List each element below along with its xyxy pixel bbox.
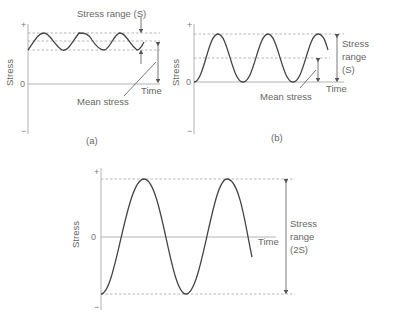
stress-range-line2: range bbox=[290, 231, 314, 242]
stress-range-line3: (S) bbox=[342, 64, 355, 75]
tick-zero: 0 bbox=[20, 79, 25, 89]
tick-minus: − bbox=[94, 302, 99, 312]
x-axis-label: Time bbox=[141, 85, 162, 96]
caption-a: (a) bbox=[86, 135, 98, 146]
tick-plus: + bbox=[94, 167, 99, 177]
caption-b: (b) bbox=[271, 132, 283, 143]
mean-stress-label: Mean stress bbox=[77, 96, 129, 107]
stress-wave-c bbox=[101, 179, 252, 294]
stress-range-label: Stress range (S) bbox=[77, 8, 146, 19]
stress-wave-a bbox=[28, 33, 144, 50]
stress-range-line1: Stress bbox=[342, 38, 369, 49]
tick-plus: + bbox=[187, 20, 192, 30]
tick-zero: 0 bbox=[186, 77, 191, 87]
tick-plus: + bbox=[21, 20, 26, 30]
x-axis-label: Time bbox=[326, 83, 347, 94]
x-axis-label: Time bbox=[258, 236, 279, 247]
tick-minus: − bbox=[21, 126, 26, 136]
panel-c: + 0 − Stress Time Stress range (2S) bbox=[70, 167, 317, 312]
y-axis-label: Stress bbox=[70, 221, 81, 248]
stress-cycle-diagram: + 0 − Stress Time Stress range (S) Mean … bbox=[0, 0, 397, 314]
mean-stress-label: Mean stress bbox=[260, 91, 312, 102]
stress-range-line3: (2S) bbox=[290, 244, 308, 255]
stress-range-line2: range bbox=[342, 51, 366, 62]
stress-range-line1: Stress bbox=[290, 218, 317, 229]
y-axis-label: Stress bbox=[4, 59, 15, 86]
tick-zero: 0 bbox=[91, 232, 96, 242]
panel-a: + 0 − Stress Time Stress range (S) Mean … bbox=[4, 8, 162, 146]
y-axis-label: Stress bbox=[170, 59, 181, 86]
panel-b: + 0 − Stress Time Stress range (S) Mean … bbox=[170, 20, 369, 143]
tick-minus: − bbox=[187, 126, 192, 136]
